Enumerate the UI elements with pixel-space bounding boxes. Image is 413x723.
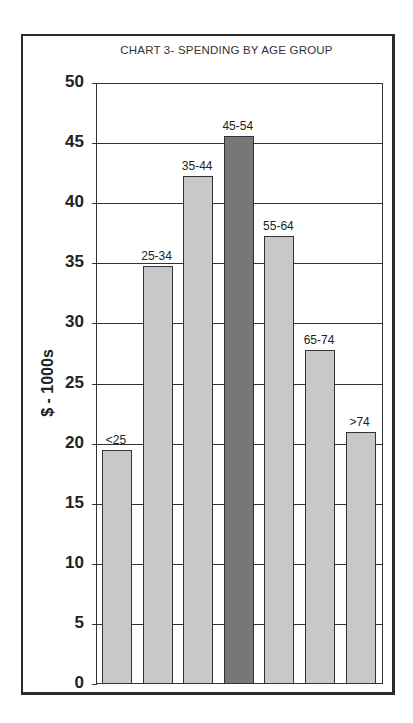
bar-category-label: 55-64	[253, 219, 303, 233]
bar	[224, 136, 254, 683]
y-tick-label: 15	[44, 493, 84, 513]
y-tick-label: 20	[44, 433, 84, 453]
plot-area	[96, 83, 383, 684]
bar	[264, 236, 294, 683]
bar	[346, 432, 376, 683]
bar-category-label: 45-54	[213, 119, 263, 133]
bar-category-label: <25	[91, 433, 141, 447]
y-tick-label: 10	[44, 553, 84, 573]
bar-category-label: 35-44	[172, 159, 222, 173]
chart-title: CHART 3- SPENDING BY AGE GROUP	[0, 44, 413, 56]
y-tick-label: 25	[44, 373, 84, 393]
bar-category-label: >74	[335, 415, 385, 429]
bar-category-label: 65-74	[294, 333, 344, 347]
bar	[305, 350, 335, 683]
bar	[143, 266, 173, 683]
y-tick-label: 40	[44, 192, 84, 212]
y-tick-mark	[92, 684, 97, 685]
y-tick-label: 30	[44, 312, 84, 332]
bar-category-label: 25-34	[132, 249, 182, 263]
y-tick-label: 45	[44, 132, 84, 152]
y-tick-label: 35	[44, 252, 84, 272]
bar	[102, 450, 132, 683]
y-tick-label: 5	[44, 613, 84, 633]
y-tick-label: 50	[44, 72, 84, 92]
bar	[183, 176, 213, 683]
y-tick-label: 0	[44, 673, 84, 693]
